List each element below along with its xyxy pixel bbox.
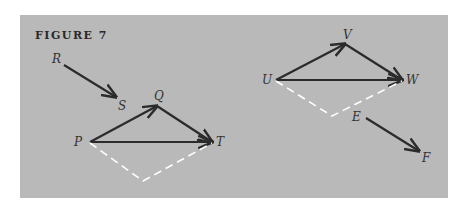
vector-vw	[345, 44, 402, 80]
label-r: R	[51, 52, 61, 66]
vector-ef	[366, 118, 419, 151]
label-e: E	[351, 110, 361, 124]
vector-uv	[276, 44, 345, 80]
right-diagram	[276, 44, 419, 151]
label-f: F	[421, 151, 431, 165]
label-t: T	[216, 135, 225, 149]
dashed-parallelogram-right	[276, 81, 402, 116]
label-q: Q	[154, 89, 164, 103]
vector-diagram: R S Q P T V U W E F	[0, 0, 468, 210]
vector-qt	[157, 106, 212, 142]
vector-rs	[64, 65, 116, 97]
label-v: V	[343, 28, 353, 42]
label-s: S	[118, 99, 126, 113]
left-diagram	[64, 65, 212, 181]
label-p: P	[73, 135, 83, 149]
label-w: W	[406, 73, 420, 87]
dashed-parallelogram-left	[90, 143, 212, 181]
label-u: U	[262, 73, 273, 87]
